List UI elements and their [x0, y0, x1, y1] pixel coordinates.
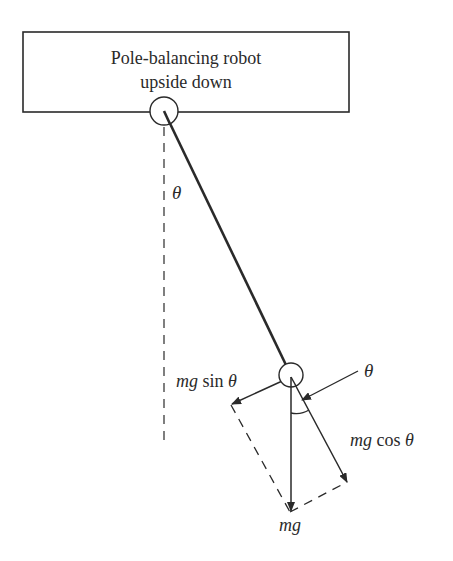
- angle-arc: [291, 410, 309, 414]
- mg-label: mg: [279, 515, 301, 535]
- pole-balancing-diagram: Pole-balancing robot upside down θ θ mg …: [0, 0, 453, 561]
- mg-sin-theta-label: mg sin θ: [176, 371, 237, 391]
- mg-cos-theta-label: mg cos θ: [350, 430, 414, 450]
- theta-angle-label-right: θ: [364, 360, 373, 381]
- robot-box-label-line2: upside down: [140, 72, 232, 92]
- mg-cos-theta-arrow: [291, 377, 347, 482]
- theta-pointer-arrow: [302, 371, 358, 400]
- theta-angle-label-top: θ: [172, 182, 181, 203]
- parallelogram-dashed-bottom: [290, 482, 347, 512]
- robot-box-label-line1: Pole-balancing robot: [111, 48, 261, 68]
- parallelogram-dashed-left: [231, 405, 290, 512]
- pole: [164, 111, 286, 365]
